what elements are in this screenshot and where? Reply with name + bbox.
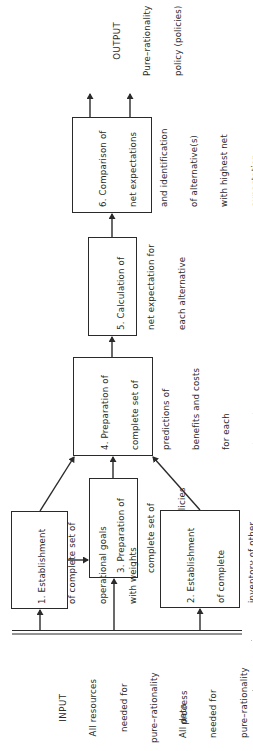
box-2-line: of complete [216,522,226,603]
input-data-line: All data [178,667,188,738]
box-6-line: with highest net [219,128,229,207]
box-2-text: 2. Establishment of complete inventory o… [166,522,253,603]
box-1-line: of complete set of [67,522,77,604]
output-line: policy (policies) [173,5,183,76]
box-5-line: 5. Calculation of [116,244,126,330]
scan-artifact [251,640,252,641]
input-resources-line: needed for [119,672,129,743]
box-6-line: of alternative(s) [189,128,199,207]
box-4-text: 4. Preparation of complete set of predic… [80,368,253,450]
box-5-line: each alternative [177,244,187,330]
box-1-line: operational goals [98,522,108,604]
input-data-label: All data needed for pure–rationality pro… [158,667,253,738]
scan-artifact [252,690,253,691]
box-1-line: with weights [128,522,138,604]
box-4-line: for each [221,368,231,450]
box-2-line: inventory of other [247,522,253,603]
box-5-text: 5. Calculation of net expectation for ea… [96,244,197,330]
scan-artifact [252,530,253,531]
box-4-line: complete set of [130,368,140,450]
box-6-line: 6. Comparison of [98,128,108,207]
box-4-line: 4. Preparation of [100,368,110,450]
box-6-text: 6. Comparison of net expectations and id… [78,128,253,207]
box-2-line: 2. Establishment [186,522,196,603]
box-4-line: benefits and costs [191,368,201,450]
scan-artifact [252,600,253,601]
box-1-text: 1. Establishment of complete set of oper… [17,522,148,604]
box-6-line: net expectations [128,128,138,207]
box-1-line: 1. Establishment [37,522,47,604]
input-bus [12,631,242,635]
scan-artifact [251,560,252,561]
input-resources-line: All resources [88,672,98,743]
arrow-box1-to-box4 [40,457,74,511]
output-line: Pure–rationality [142,5,152,76]
input-data-line: needed for [208,667,218,738]
output-title: OUTPUT [112,5,122,76]
box-4-line: alternative [252,368,253,450]
box-5-line: net expectation for [146,244,156,330]
box-4-line: predictions of [161,368,171,450]
input-title: INPUT [58,672,68,743]
box-6-line: expectation [250,128,253,207]
box-6-line: and identification [159,128,169,207]
input-data-line: pure–rationality [239,667,249,738]
output-label: OUTPUT Pure–rationality policy (policies… [92,5,193,76]
